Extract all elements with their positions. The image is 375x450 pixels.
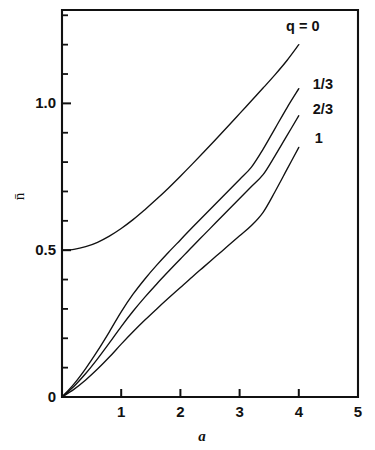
y-tick-label: 1.0 (35, 94, 56, 111)
y-tick-label: 0.5 (35, 241, 56, 258)
axis-ticks (62, 15, 358, 397)
chart-canvas: 00.51.012345 q = 01/32/31 an̄ (0, 0, 375, 450)
data-curves (62, 45, 299, 397)
curve-label-3: 2/3 (313, 101, 333, 117)
curve-label-4: 1 (315, 130, 323, 146)
x-axis-title: a (198, 428, 206, 444)
x-tick-label: 5 (354, 403, 362, 420)
axes (62, 10, 358, 397)
chart-figure: 00.51.012345 q = 01/32/31 an̄ (0, 0, 375, 450)
x-tick-label: 4 (295, 403, 304, 420)
x-tick-label: 1 (117, 403, 125, 420)
x-tick-label: 3 (235, 403, 243, 420)
y-tick-label: 0 (48, 388, 56, 405)
data-curve-1 (62, 45, 299, 251)
data-curve-3 (62, 116, 299, 397)
plot-frame (62, 10, 358, 397)
x-tick-label: 2 (176, 403, 184, 420)
y-axis-title: n̄ (11, 192, 27, 200)
curve-label-2: 1/3 (313, 76, 333, 92)
curve-label-1: q = 0 (286, 18, 319, 34)
curve-labels: q = 01/32/31 (286, 18, 333, 147)
